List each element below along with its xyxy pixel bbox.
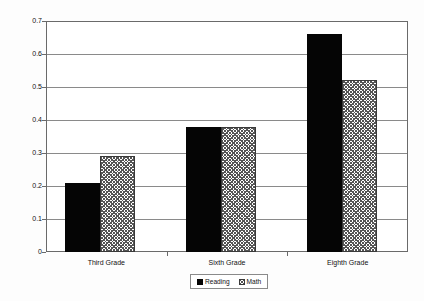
bar-math-third-grade bbox=[100, 156, 135, 252]
bar-reading-third-grade bbox=[65, 183, 100, 252]
y-tick-label: 0.7 bbox=[8, 17, 42, 25]
y-tick-mark bbox=[42, 252, 46, 253]
legend-item-math: Math bbox=[239, 278, 262, 286]
bar-reading-eighth-grade bbox=[307, 34, 342, 252]
y-tick-label: 0.2 bbox=[8, 182, 42, 190]
y-tick-label: 0.6 bbox=[8, 50, 42, 58]
bar-math-sixth-grade bbox=[221, 127, 256, 252]
x-axis-label-sixth-grade: Sixth Grade bbox=[167, 258, 288, 267]
bars-layer bbox=[46, 21, 408, 252]
legend: ReadingMath bbox=[190, 274, 268, 289]
legend-item-reading: Reading bbox=[197, 278, 230, 286]
category-separator bbox=[287, 252, 288, 256]
legend-label-math: Math bbox=[247, 278, 262, 286]
x-axis-label-eighth-grade: Eighth Grade bbox=[287, 258, 408, 267]
y-tick-label: 0.1 bbox=[8, 215, 42, 223]
y-tick-label: 0.4 bbox=[8, 116, 42, 124]
y-tick-label: 0.3 bbox=[8, 149, 42, 157]
legend-swatch-math-icon bbox=[239, 279, 245, 285]
bar-chart: Achievement Gain (Grade Equivalents) 00.… bbox=[0, 0, 424, 301]
x-axis-label-third-grade: Third Grade bbox=[46, 258, 167, 267]
bar-math-eighth-grade bbox=[342, 80, 377, 252]
y-tick-label: 0.5 bbox=[8, 83, 42, 91]
legend-swatch-reading-icon bbox=[197, 279, 203, 285]
bar-reading-sixth-grade bbox=[186, 127, 221, 252]
category-separator bbox=[167, 252, 168, 256]
legend-label-reading: Reading bbox=[205, 278, 230, 286]
y-tick-label: 0 bbox=[8, 248, 42, 256]
